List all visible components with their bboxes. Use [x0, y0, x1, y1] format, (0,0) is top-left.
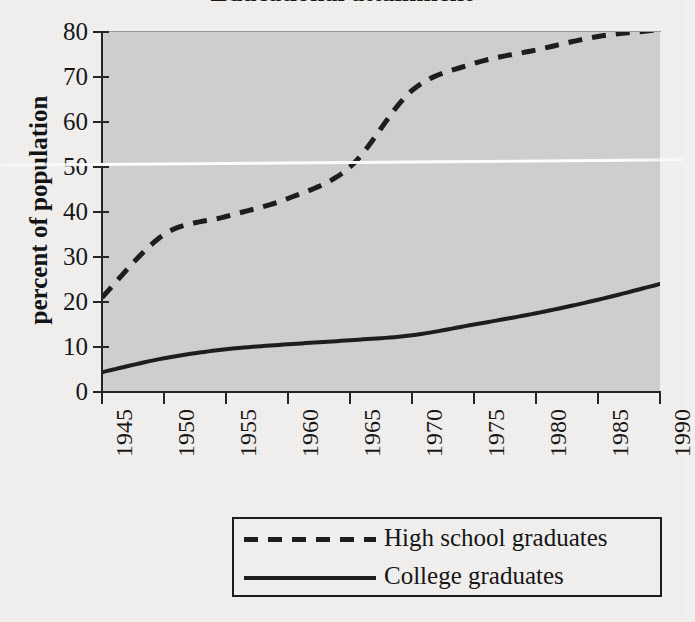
y-tick-label-40: 40	[44, 199, 88, 224]
y-tick-label-30: 30	[44, 244, 88, 269]
x-tick-label-1970: 1970	[422, 409, 446, 457]
y-tick-60	[93, 121, 109, 123]
y-tick-label-group: 01020304050607080	[38, 0, 88, 622]
x-tick-label-1950: 1950	[174, 409, 198, 457]
legend-solid-line-swatch	[234, 566, 384, 586]
y-tick-40	[93, 211, 109, 213]
x-tick-1960	[287, 391, 289, 404]
x-tick-label-1960: 1960	[298, 409, 322, 457]
x-tick-1950	[163, 391, 165, 404]
x-tick-1980	[535, 391, 537, 404]
legend-dashed-line-swatch	[234, 528, 384, 548]
x-tick-label-1985: 1985	[608, 409, 632, 457]
x-tick-1985	[597, 391, 599, 404]
legend-label-college: College graduates	[384, 563, 564, 589]
x-tick-1955	[225, 391, 227, 404]
x-tick-label-1980: 1980	[546, 409, 570, 457]
x-tick-1965	[349, 391, 351, 404]
y-tick-label-50: 50	[44, 154, 88, 179]
y-tick-label-80: 80	[44, 19, 88, 44]
x-tick-label-1975: 1975	[484, 409, 508, 457]
plot-area	[102, 32, 660, 392]
x-tick-label-1945: 1945	[112, 409, 136, 457]
chart-legend: High school graduates College graduates	[232, 517, 662, 597]
series-high-school-graduates-line	[102, 32, 660, 298]
legend-item-high-school: High school graduates	[234, 519, 660, 557]
y-tick-20	[93, 301, 109, 303]
y-tick-label-20: 20	[44, 289, 88, 314]
x-tick-label-1955: 1955	[236, 409, 260, 457]
y-tick-80	[93, 31, 109, 33]
y-tick-label-60: 60	[44, 109, 88, 134]
y-tick-label-70: 70	[44, 64, 88, 89]
x-tick-1975	[473, 391, 475, 404]
legend-item-college: College graduates	[234, 557, 660, 595]
x-tick-label-1965: 1965	[360, 409, 384, 457]
y-tick-70	[93, 76, 109, 78]
x-tick-1970	[411, 391, 413, 404]
y-tick-50	[93, 166, 109, 168]
y-tick-label-0: 0	[44, 379, 88, 404]
chart-title-text: Educational attainment	[210, 0, 472, 8]
x-tick-label-1990: 1990	[670, 409, 694, 457]
y-tick-30	[93, 256, 109, 258]
y-tick-label-10: 10	[44, 334, 88, 359]
x-tick-1990	[659, 391, 661, 404]
chart-title-cropped: Educational attainment	[0, 0, 683, 8]
legend-label-high-school: High school graduates	[384, 525, 608, 551]
series-college-graduates-line	[102, 284, 660, 372]
x-axis-line	[101, 391, 661, 393]
x-tick-1945	[101, 391, 103, 404]
series-lines	[102, 32, 660, 392]
y-tick-10	[93, 346, 109, 348]
